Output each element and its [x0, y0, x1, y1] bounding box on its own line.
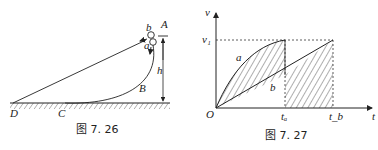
region-under-b [285, 40, 333, 108]
label-D: D [9, 107, 18, 119]
figures-canvas: A b a h B C D 图 7. 26 v v₁ O a b tₐ t_b … [0, 0, 378, 150]
label-ta: tₐ [281, 110, 287, 122]
label-v: v [205, 6, 210, 18]
caption-7-26: 图 7. 26 [76, 123, 119, 136]
label-line-b: b [270, 81, 276, 93]
label-B: B [139, 82, 146, 94]
figure-7-26: A b a h B C D 图 7. 26 [9, 18, 170, 136]
label-a: a [144, 39, 150, 51]
label-h: h [157, 64, 163, 76]
label-tb: t_b [329, 110, 344, 122]
label-A: A [160, 18, 168, 30]
caption-7-27: 图 7. 27 [265, 129, 308, 142]
label-b: b [146, 21, 152, 33]
label-curve-a: a [236, 51, 242, 63]
label-O: O [206, 108, 214, 120]
ball-a [150, 39, 157, 46]
label-v1: v₁ [202, 33, 211, 45]
figure-7-27: v v₁ O a b tₐ t_b t 图 7. 27 [202, 6, 376, 142]
ground-hatch [10, 103, 170, 109]
label-t: t [372, 110, 376, 122]
arrow-a-icon [150, 47, 151, 54]
label-C: C [58, 107, 66, 119]
track-curve [65, 45, 154, 103]
